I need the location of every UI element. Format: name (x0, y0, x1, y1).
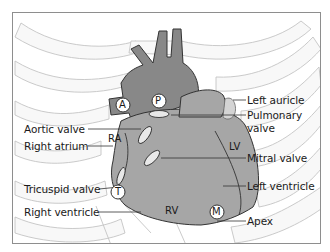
region-rv-label: RV (165, 205, 178, 216)
label-mitral-valve: Mitral valve (247, 152, 307, 164)
label-pulmonary-valve-line2: valve (247, 122, 275, 134)
region-ra-label: RA (108, 133, 121, 144)
label-apex: Apex (247, 215, 273, 227)
label-left-ventricle: Left ventricle (247, 180, 315, 192)
label-aortic-valve: Aortic valve (24, 123, 85, 135)
label-tricuspid-valve: Tricuspid valve (24, 183, 100, 195)
point-p-label: P (155, 95, 161, 106)
label-right-atrium: Right atrium (24, 140, 88, 152)
point-a-label: A (119, 99, 126, 110)
point-t-label: T (115, 186, 121, 197)
region-lv-label: LV (229, 141, 240, 152)
label-left-auricle: Left auricle (247, 94, 304, 106)
left-auricle-shape (223, 98, 236, 119)
label-right-ventricle: Right ventricle (24, 206, 99, 218)
label-pulmonary-valve-line1: Pulmonary (247, 109, 302, 121)
point-m-label: M (212, 206, 221, 217)
diagram-frame: A P T M RA LV RV Aortic valve Right atri… (12, 12, 321, 244)
